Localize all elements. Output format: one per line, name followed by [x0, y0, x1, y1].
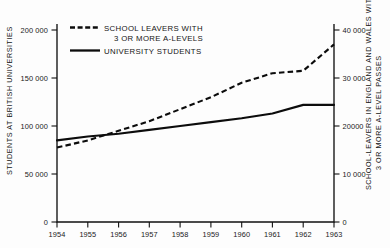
chart-canvas: 0 50 000 100 000 150 000 200 000 STUDENT… [0, 0, 390, 248]
left-tick-label-0: 0 [44, 218, 48, 227]
x-tick-label-1954: 1954 [49, 230, 66, 239]
legend-entry-0-line2: 3 OR MORE A-LEVELS [114, 34, 203, 43]
chart-figure: 0 50 000 100 000 150 000 200 000 STUDENT… [0, 0, 390, 248]
x-tick-label-1956: 1956 [110, 230, 127, 239]
x-tick-label-1962: 1962 [295, 230, 312, 239]
left-axis-ticks [52, 30, 58, 222]
chart-legend: SCHOOL LEAVERS WITH 3 OR MORE A-LEVELS U… [70, 24, 203, 56]
series-school-leavers [57, 44, 334, 147]
x-tick-label-1957: 1957 [141, 230, 158, 239]
right-tick-label-40000: 40 000 [343, 26, 366, 35]
right-axis-title-line2: 3 OR MORE A-LEVEL PASSES [374, 55, 383, 170]
legend-entry-0-line1: SCHOOL LEAVERS WITH [104, 24, 203, 33]
left-tick-label-100000: 100 000 [21, 122, 48, 131]
x-tick-label-1958: 1958 [172, 230, 189, 239]
right-axis-ticks [334, 30, 340, 222]
x-tick-label-1961: 1961 [264, 230, 281, 239]
left-tick-label-150000: 150 000 [21, 74, 48, 83]
left-axis-title: STUDENTS AT BRITISH UNIVERSITIES [5, 26, 14, 175]
left-tick-label-200000: 200 000 [21, 26, 48, 35]
x-tick-label-1960: 1960 [233, 230, 250, 239]
x-axis-ticks [57, 222, 334, 228]
right-tick-label-10000: 10 000 [343, 170, 366, 179]
x-tick-label-1955: 1955 [79, 230, 96, 239]
left-tick-label-50000: 50 000 [25, 170, 48, 179]
x-tick-label-1963: 1963 [326, 230, 343, 239]
right-axis-title-line1: SCHOOL-LEAVERS IN ENGLAND AND WALES WITH [364, 0, 373, 190]
right-tick-label-30000: 30 000 [343, 74, 366, 83]
x-tick-label-1959: 1959 [202, 230, 219, 239]
series-university-students [57, 105, 334, 141]
legend-entry-1-line1: UNIVERSITY STUDENTS [104, 47, 201, 56]
right-tick-label-20000: 20000 [343, 122, 364, 131]
right-tick-label-0: 0 [343, 218, 347, 227]
